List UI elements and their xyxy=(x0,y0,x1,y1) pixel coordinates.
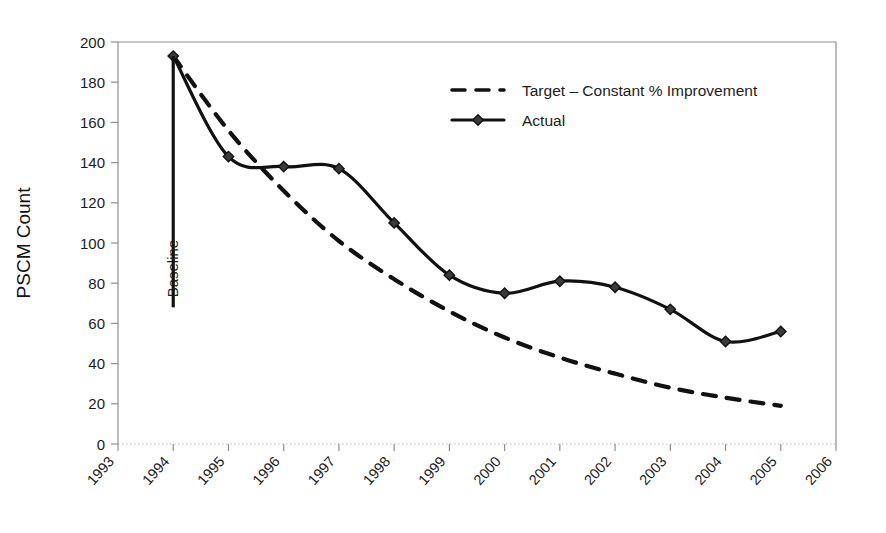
y-tick-label: 100 xyxy=(80,235,105,252)
pscm-count-line-chart: 020406080100120140160180200 199319941995… xyxy=(0,0,886,533)
y-tick-label: 120 xyxy=(80,194,105,211)
y-tick-label: 80 xyxy=(88,275,105,292)
y-tick-label: 160 xyxy=(80,114,105,131)
y-tick-label: 20 xyxy=(88,395,105,412)
y-tick-label: 40 xyxy=(88,355,105,372)
y-tick-label: 0 xyxy=(97,436,105,453)
chart-figure: 020406080100120140160180200 199319941995… xyxy=(0,0,886,533)
y-axis-title-label: PSCM Count xyxy=(13,187,34,299)
legend-entry-label: Actual xyxy=(522,112,565,129)
y-tick-label: 140 xyxy=(80,154,105,171)
baseline-label: Baseline xyxy=(164,240,181,298)
y-tick-label: 180 xyxy=(80,74,105,91)
y-axis-title: PSCM Count xyxy=(13,187,34,299)
legend-entry-label: Target – Constant % Improvement xyxy=(522,82,758,99)
y-tick-label: 60 xyxy=(88,315,105,332)
chart-background xyxy=(0,0,886,533)
y-tick-label: 200 xyxy=(80,34,105,51)
